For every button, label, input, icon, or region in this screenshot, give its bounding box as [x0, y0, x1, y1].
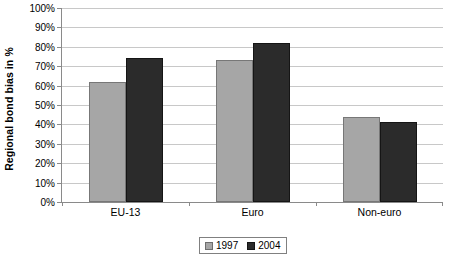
bar-chart: Regional bond bias in % 0%10%20%30%40%50… — [0, 0, 457, 265]
legend-item-2004: 2004 — [247, 240, 280, 251]
y-axis-tick-label: 10% — [35, 177, 55, 188]
bar-non-euro-2004 — [380, 122, 417, 202]
y-axis-tick-label: 60% — [35, 80, 55, 91]
y-axis-tick-label: 40% — [35, 119, 55, 130]
y-axis-tick-label: 90% — [35, 22, 55, 33]
y-axis-tick-label: 0% — [41, 197, 55, 208]
y-axis-tick-mark — [57, 47, 61, 48]
y-axis-tick-mark — [57, 144, 61, 145]
y-axis-tick-mark — [57, 183, 61, 184]
plot-area — [62, 8, 443, 202]
x-axis-category-label: Non-euro — [358, 206, 402, 218]
y-axis-tick-mark — [57, 8, 61, 9]
y-axis-tick-label: 100% — [29, 3, 55, 14]
chart-legend: 19972004 — [199, 237, 287, 254]
y-axis-tick-label: 80% — [35, 41, 55, 52]
y-axis-tick-label: 70% — [35, 61, 55, 72]
bar-euro-2004 — [253, 43, 290, 202]
y-axis-tick-mark — [57, 66, 61, 67]
legend-item-1997: 1997 — [205, 240, 238, 251]
legend-swatch-icon — [247, 242, 255, 250]
y-axis-tick-mark — [57, 86, 61, 87]
legend-label: 2004 — [258, 240, 280, 251]
y-axis-tick-label: 30% — [35, 138, 55, 149]
y-axis-tick-labels: 0%10%20%30%40%50%60%70%80%90%100% — [18, 8, 58, 202]
y-axis-tick-mark — [57, 105, 61, 106]
bar-non-euro-1997 — [343, 117, 380, 202]
legend-label: 1997 — [216, 240, 238, 251]
y-axis-tick-label: 50% — [35, 100, 55, 111]
y-axis-tick-label: 20% — [35, 158, 55, 169]
x-axis-category-labels: EU-13EuroNon-euro — [62, 206, 443, 226]
bar-euro-1997 — [216, 60, 253, 202]
bars-layer — [62, 8, 443, 202]
y-axis-tick-mark — [57, 27, 61, 28]
y-axis-title: Regional bond bias in % — [0, 0, 18, 218]
bar-eu-13-2004 — [126, 58, 163, 202]
y-axis-title-text: Regional bond bias in % — [3, 47, 15, 171]
y-axis-tick-mark — [57, 124, 61, 125]
legend-swatch-icon — [205, 242, 213, 250]
x-axis-category-label: Euro — [241, 206, 263, 218]
y-axis-tick-mark — [57, 202, 61, 203]
y-axis-tick-mark — [57, 163, 61, 164]
bar-eu-13-1997 — [89, 82, 126, 202]
x-axis-category-label: EU-13 — [111, 206, 141, 218]
